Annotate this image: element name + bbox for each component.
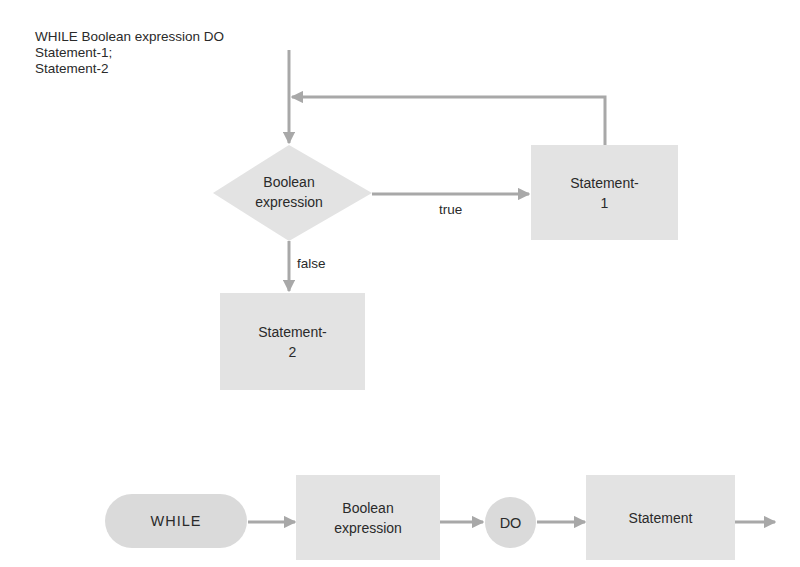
condition-box: Boolean expression: [296, 475, 440, 560]
do-keyword-label: DO: [500, 515, 522, 531]
statement-1-line1: Statement-: [570, 173, 638, 193]
do-keyword-terminal: DO: [485, 497, 536, 548]
decision-label: Boolean expression: [229, 172, 349, 212]
statement-2-box: Statement- 2: [220, 293, 365, 390]
false-label: false: [297, 256, 326, 271]
statement-label: Statement: [629, 508, 693, 528]
while-keyword-label: WHILE: [151, 513, 202, 529]
statement-box: Statement: [586, 475, 735, 560]
condition-line2: expression: [334, 518, 402, 538]
true-label: true: [439, 202, 462, 217]
statement-1-line2: 1: [570, 193, 638, 213]
while-keyword-terminal: WHILE: [105, 494, 247, 548]
decision-label-line1: Boolean: [229, 172, 349, 192]
statement-2-line1: Statement-: [258, 322, 326, 342]
statement-2-line2: 2: [258, 342, 326, 362]
statement-1-box: Statement- 1: [531, 145, 678, 240]
decision-label-line2: expression: [229, 192, 349, 212]
condition-line1: Boolean: [334, 498, 402, 518]
loop-back-arrow: [292, 97, 605, 145]
